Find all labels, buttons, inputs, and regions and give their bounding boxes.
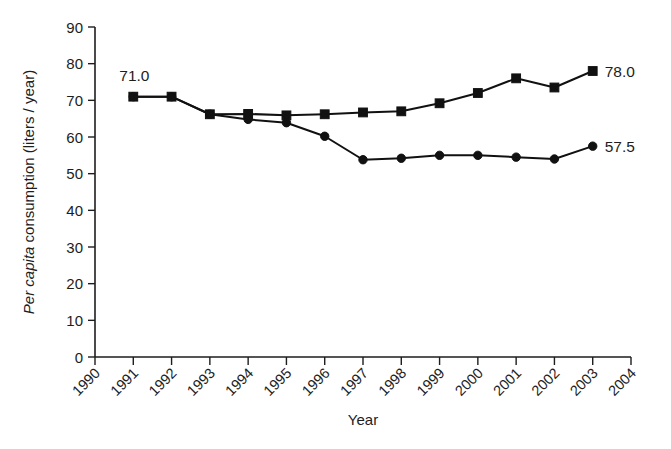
- y-tick-label: 90: [66, 19, 83, 36]
- data-point-square: [550, 83, 559, 92]
- x-tick-label: 1995: [260, 365, 294, 399]
- y-tick-label: 60: [66, 129, 83, 146]
- series-line-circle-series: [133, 97, 592, 160]
- data-point-circle: [129, 92, 137, 100]
- y-tick-label: 50: [66, 165, 83, 182]
- x-tick-label: 1998: [375, 365, 409, 399]
- data-point-circle: [206, 110, 214, 118]
- x-tick-label: 1999: [414, 365, 448, 399]
- data-point-circle: [512, 153, 520, 161]
- x-axis-ticks: [95, 357, 631, 365]
- x-tick-label: 2004: [605, 365, 639, 399]
- data-point-circle: [244, 115, 252, 123]
- square-end-value-label: 78.0: [605, 63, 636, 80]
- data-point-square: [473, 89, 482, 98]
- y-axis-title-italic-part: Per capita: [20, 247, 37, 315]
- y-tick-label: 20: [66, 275, 83, 292]
- x-tick-label: 2000: [452, 365, 486, 399]
- data-point-square: [359, 108, 368, 117]
- y-tick-label: 70: [66, 92, 83, 109]
- x-axis-tick-labels: 1990199119921993199419951996199719981999…: [69, 365, 639, 399]
- y-axis-tick-labels: 0102030405060708090: [66, 19, 83, 366]
- data-point-circle: [321, 132, 329, 140]
- data-point-square: [397, 107, 406, 116]
- y-axis-ticks: [88, 27, 95, 357]
- data-point-circle: [550, 155, 558, 163]
- y-tick-label: 10: [66, 312, 83, 329]
- x-tick-label: 1990: [69, 365, 103, 399]
- x-tick-label: 2002: [528, 365, 562, 399]
- x-tick-label: 1991: [107, 365, 141, 399]
- start-value-label: 71.0: [119, 67, 150, 84]
- x-tick-label: 2001: [490, 365, 524, 399]
- data-series-group: [129, 67, 597, 164]
- data-point-circle: [397, 154, 405, 162]
- x-tick-label: 1994: [222, 365, 256, 399]
- data-point-circle: [167, 92, 175, 100]
- x-axis-title: Year: [348, 411, 378, 428]
- data-point-circle: [282, 119, 290, 127]
- data-point-circle: [359, 156, 367, 164]
- data-point-square: [588, 67, 597, 76]
- chart-figure: 0102030405060708090 19901991199219931994…: [0, 0, 671, 449]
- x-tick-label: 2003: [567, 365, 601, 399]
- y-tick-label: 30: [66, 239, 83, 256]
- x-tick-label: 1993: [184, 365, 218, 399]
- x-tick-label: 1996: [299, 365, 333, 399]
- y-axis-title-rest: consumption (liters / year): [20, 70, 37, 247]
- y-tick-label: 0: [75, 349, 83, 366]
- data-point-square: [320, 110, 329, 119]
- data-point-square: [512, 74, 521, 83]
- data-point-circle: [589, 142, 597, 150]
- y-axis: 0102030405060708090: [66, 19, 95, 366]
- data-point-circle: [474, 151, 482, 159]
- line-chart: 0102030405060708090 19901991199219931994…: [0, 0, 671, 449]
- x-tick-label: 1997: [337, 365, 371, 399]
- x-axis: 1990199119921993199419951996199719981999…: [69, 357, 639, 399]
- circle-end-value-label: 57.5: [605, 138, 635, 155]
- y-tick-label: 40: [66, 202, 83, 219]
- data-point-circle: [435, 151, 443, 159]
- x-tick-label: 1992: [146, 365, 180, 399]
- y-tick-label: 80: [66, 55, 83, 72]
- data-point-square: [435, 99, 444, 108]
- y-axis-title: Per capita consumption (liters / year): [20, 70, 37, 314]
